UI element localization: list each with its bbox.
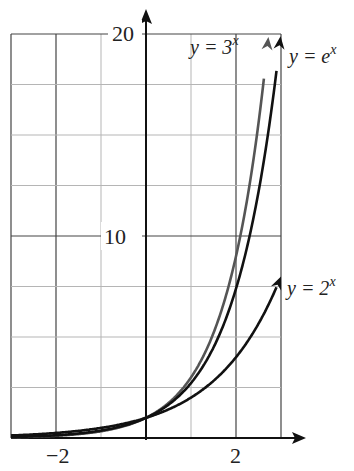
- label-3-power-x: y = 3x: [188, 33, 239, 59]
- curve-3-power-x: [11, 79, 264, 438]
- label-2-power-x: y = 2x: [285, 274, 336, 300]
- y-tick-label-10: 10: [104, 224, 126, 249]
- arrowhead-icon: [274, 36, 285, 50]
- exponential-functions-chart: 20 10 −2 2 y = 3x y = ex y = 2x: [0, 0, 354, 471]
- label-e-power-x: y = ex: [287, 42, 337, 68]
- curve-2-power-x: [11, 287, 277, 435]
- axes: [11, 9, 306, 444]
- y-tick-label-20: 20: [112, 21, 134, 46]
- x-tick-label-neg2: −2: [46, 443, 69, 468]
- arrowhead-icon: [262, 37, 273, 51]
- x-tick-label-2: 2: [230, 443, 241, 468]
- curves: [11, 36, 285, 437]
